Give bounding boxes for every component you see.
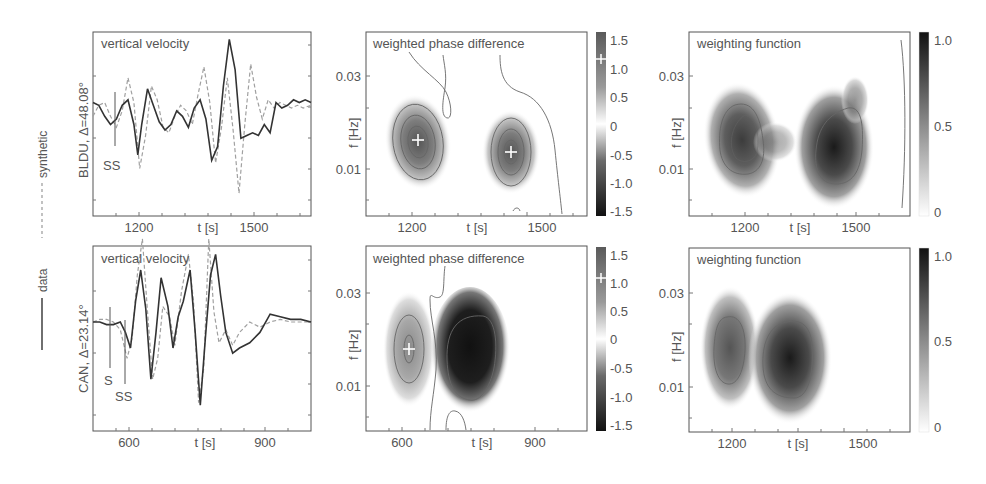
- weighting-function-plot: weighting function 0.03 0.01 f [Hz] 1200…: [659, 248, 910, 451]
- plot-title: weighted phase difference: [372, 251, 525, 266]
- ss-pick-label: SS: [115, 389, 133, 404]
- plot-title: vertical velocity: [101, 36, 190, 51]
- x-axis-label: t [s]: [467, 220, 488, 235]
- legend-synthetic-label: synthetic: [36, 131, 50, 178]
- xtick-label: 600: [391, 435, 413, 450]
- ytick-label: 0.01: [336, 162, 361, 177]
- colorbar-tick: -0.5: [610, 361, 632, 376]
- colorbar-tick: 0: [610, 332, 617, 347]
- colorbar-tick: -0.5: [610, 148, 632, 163]
- colorbar-tick: 1.0: [610, 62, 628, 77]
- x-axis-label: t [s]: [195, 435, 216, 450]
- x-axis-label: t [s]: [198, 220, 219, 235]
- plot-title: vertical velocity: [101, 251, 190, 266]
- velocity-plot: S SS vertical velocity 600 t [s] 900: [93, 239, 311, 450]
- y-axis-label: f [Hz]: [346, 118, 361, 148]
- colorbar-tick: 0: [934, 420, 941, 435]
- ytick-label: 0.03: [336, 286, 361, 301]
- y-axis-label: f [Hz]: [669, 332, 684, 362]
- ytick-label: 0.01: [336, 379, 361, 394]
- xtick-label: 900: [254, 435, 276, 450]
- colorbar-tick: -1.5: [610, 418, 632, 433]
- phase-colorbar: 1.5 1.0 0.5 0 -0.5 -1.0 -1.5: [596, 32, 632, 219]
- xtick-label: 1200: [398, 220, 427, 235]
- colorbar-tick: 1.5: [610, 33, 628, 48]
- xtick-label: 900: [524, 435, 546, 450]
- xtick-label: 1500: [849, 436, 878, 451]
- xtick-label: 600: [118, 435, 140, 450]
- ytick-label: 0.03: [336, 69, 361, 84]
- colorbar-tick: 0.5: [610, 304, 628, 319]
- s-pick-label: S: [104, 373, 113, 388]
- xtick-label: 1200: [718, 436, 747, 451]
- colorbar-tick: 0.5: [934, 119, 952, 134]
- ytick-label: 0.03: [659, 286, 684, 301]
- legend-data-label: data: [36, 268, 50, 292]
- legend: synthetic data: [36, 131, 50, 350]
- colorbar-tick: 0: [610, 119, 617, 134]
- plot-title: weighting function: [696, 252, 801, 267]
- colorbar-tick: -1.5: [610, 204, 632, 219]
- colorbar-tick: 0.5: [610, 90, 628, 105]
- x-axis-label: t [s]: [790, 220, 811, 235]
- ytick-label: 0.01: [659, 380, 684, 395]
- weight-heatmap: [700, 286, 832, 424]
- ytick-label: 0.01: [659, 162, 684, 177]
- y-axis-label: f [Hz]: [669, 118, 684, 148]
- y-axis-label: f [Hz]: [346, 330, 361, 360]
- colorbar-tick: 1.0: [934, 249, 952, 264]
- xtick-label: 1500: [528, 220, 557, 235]
- phase-colorbar: 1.5 1.0 0.5 0 -0.5 -1.0 -1.5: [596, 247, 632, 433]
- colorbar-tick: -1.0: [610, 176, 632, 191]
- plot-title: weighting function: [696, 36, 801, 51]
- weighting-function-plot: weighting function 0.03 0.01 f [Hz] 1200…: [659, 32, 910, 235]
- phase-difference-plot: weighted phase difference 0.03 0.01 f [H…: [336, 246, 587, 450]
- figure: synthetic data BLDU, Δ=48.08°: [0, 0, 986, 484]
- station-label: CAN, Δ=23.14°: [76, 304, 91, 393]
- colorbar-tick: 1.0: [610, 276, 628, 291]
- row-can: CAN, Δ=23.14° S SS vertical velocity 600: [76, 239, 952, 451]
- xtick-label: 1500: [240, 220, 269, 235]
- x-axis-label: t [s]: [472, 435, 493, 450]
- colorbar-tick: 1.5: [610, 248, 628, 263]
- plot-title: weighted phase difference: [372, 36, 525, 51]
- colorbar-tick: -1.0: [610, 390, 632, 405]
- xtick-label: 1200: [731, 220, 760, 235]
- colorbar-tick: 0: [934, 205, 941, 220]
- station-label: BLDU, Δ=48.08°: [76, 82, 91, 178]
- xtick-label: 1200: [125, 220, 154, 235]
- x-axis-label: t [s]: [788, 436, 809, 451]
- colorbar-tick: 1.0: [934, 33, 952, 48]
- weight-colorbar: 1.0 0.5 0: [919, 32, 952, 220]
- row-bldu: BLDU, Δ=48.08° SS vertical velocity 1200…: [76, 32, 952, 235]
- phase-difference-plot: weighted phase difference 0.03 0.01 f [H…: [336, 32, 587, 235]
- ytick-label: 0.03: [659, 69, 684, 84]
- colorbar-tick: 0.5: [934, 334, 952, 349]
- weight-colorbar: 1.0 0.5 0: [919, 248, 952, 435]
- velocity-plot: SS vertical velocity 1200 t [s] 1500: [93, 32, 311, 235]
- ss-pick-label: SS: [103, 158, 121, 173]
- xtick-label: 1500: [842, 220, 871, 235]
